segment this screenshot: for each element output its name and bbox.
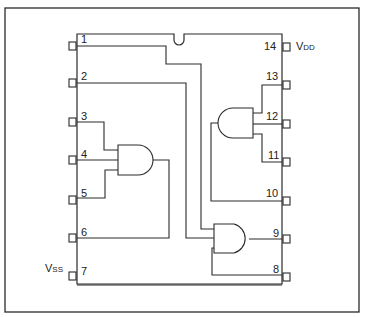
pin-label-13: 13 <box>266 70 278 82</box>
pin-12 <box>283 120 290 128</box>
and-gate-c <box>214 224 245 253</box>
pin-14 <box>283 43 290 51</box>
pin-4 <box>69 156 76 164</box>
pin-1 <box>69 42 76 50</box>
wire-pin1 <box>77 46 214 229</box>
pin-label-5: 5 <box>81 187 87 199</box>
pin-8 <box>283 273 290 281</box>
pin-label-7: 7 <box>81 265 87 277</box>
pin-5 <box>69 196 76 204</box>
wire-pin3 <box>77 122 118 150</box>
pin-label-1: 1 <box>81 33 87 45</box>
ic-pinout-diagram: 1 2 3 4 5 6 7 14 13 12 11 10 9 8 VDD VSS <box>0 0 365 317</box>
pin-label-12: 12 <box>266 110 278 122</box>
and-gate-b <box>218 108 253 138</box>
pin-label-10: 10 <box>266 187 278 199</box>
pin-labels: 1 2 3 4 5 6 7 14 13 12 11 10 9 8 <box>81 33 279 277</box>
and-gate-a <box>118 145 153 175</box>
pin-7 <box>69 272 76 280</box>
pin-11 <box>283 158 290 166</box>
pin-label-6: 6 <box>81 226 87 238</box>
pin-label-3: 3 <box>81 110 87 122</box>
vdd-label: VDD <box>296 40 315 52</box>
pin-2 <box>69 79 76 87</box>
left-pins <box>69 42 76 280</box>
pin-label-8: 8 <box>273 263 279 275</box>
pin-3 <box>69 118 76 126</box>
pin-label-4: 4 <box>81 148 87 160</box>
pin-10 <box>283 197 290 205</box>
wire-pin13 <box>253 85 282 113</box>
pin-label-14: 14 <box>264 40 276 52</box>
pin-6 <box>69 234 76 242</box>
pin-label-2: 2 <box>81 70 87 82</box>
pin-13 <box>283 81 290 89</box>
pin-9 <box>283 235 290 243</box>
wires <box>77 46 282 285</box>
chip-body <box>77 34 282 284</box>
pin-label-11: 11 <box>268 149 279 161</box>
pin-label-9: 9 <box>273 227 279 239</box>
right-pins <box>283 43 290 281</box>
vss-label: VSS <box>45 262 63 274</box>
